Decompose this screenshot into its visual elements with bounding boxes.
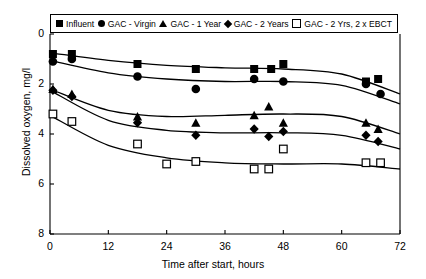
data-point-gac-2-yrs-2-x-ebct bbox=[49, 110, 57, 118]
data-point-influent bbox=[250, 65, 258, 73]
chart-figure: InfluentGAC - VirginGAC - 1 YearGAC - 2 … bbox=[0, 0, 426, 279]
legend-label: GAC - 2 Years bbox=[234, 19, 289, 29]
x-tick-label: 72 bbox=[385, 240, 415, 252]
x-tick-label: 60 bbox=[327, 240, 357, 252]
data-point-influent bbox=[192, 65, 200, 73]
filled-triangle-icon bbox=[159, 20, 167, 27]
data-point-gac-2-yrs-2-x-ebct bbox=[250, 165, 258, 173]
trend-lines bbox=[50, 53, 400, 169]
axis-ticks bbox=[50, 34, 400, 234]
legend-label: GAC - 1 Year bbox=[170, 19, 221, 29]
data-point-influent bbox=[49, 50, 57, 58]
data-point-gac-2-yrs-2-x-ebct bbox=[192, 158, 200, 166]
data-point-gac-1-year bbox=[279, 118, 288, 127]
data-point-gac-2-yrs-2-x-ebct bbox=[280, 145, 288, 153]
trend-line-influent bbox=[50, 53, 400, 94]
data-point-gac-1-year bbox=[264, 102, 273, 111]
data-point-gac-2-yrs-2-x-ebct bbox=[377, 159, 385, 167]
trend-line-gac-2-years bbox=[50, 90, 400, 149]
trend-line-gac-2-yrs-2-x-ebct bbox=[50, 115, 400, 169]
legend-item-gac-virgin: GAC - Virgin bbox=[98, 19, 156, 29]
y-tick-label: 8 bbox=[20, 227, 44, 239]
open-square-icon bbox=[292, 19, 301, 28]
x-tick-label: 48 bbox=[268, 240, 298, 252]
data-point-gac-virgin bbox=[68, 55, 77, 64]
data-point-influent bbox=[134, 60, 142, 68]
data-point-influent bbox=[279, 60, 287, 68]
data-point-gac-virgin bbox=[250, 75, 259, 84]
x-tick-label: 24 bbox=[152, 240, 182, 252]
data-point-gac-virgin bbox=[279, 77, 288, 86]
data-point-gac-2-yrs-2-x-ebct bbox=[362, 159, 370, 167]
data-point-gac-2-years bbox=[279, 127, 288, 137]
x-tick-label: 36 bbox=[210, 240, 240, 252]
axis-lines bbox=[50, 34, 400, 234]
data-point-gac-2-yrs-2-x-ebct bbox=[134, 140, 142, 148]
legend-label: Influent bbox=[66, 19, 94, 29]
data-point-gac-2-yrs-2-x-ebct bbox=[265, 165, 273, 173]
chart-legend: InfluentGAC - VirginGAC - 1 YearGAC - 2 … bbox=[50, 14, 398, 33]
data-point-influent bbox=[374, 75, 382, 83]
data-point-gac-2-years bbox=[374, 137, 383, 147]
data-point-gac-1-year bbox=[191, 118, 200, 127]
data-point-gac-virgin bbox=[49, 57, 58, 66]
legend-item-influent: Influent bbox=[56, 19, 94, 29]
data-point-gac-virgin bbox=[376, 90, 385, 99]
data-point-gac-virgin bbox=[133, 72, 142, 81]
data-point-gac-virgin bbox=[192, 85, 201, 94]
filled-circle-icon bbox=[98, 20, 105, 27]
data-point-gac-2-yrs-2-x-ebct bbox=[68, 118, 76, 126]
data-markers bbox=[48, 50, 385, 173]
y-tick-label: 4 bbox=[20, 127, 44, 139]
y-tick-label: 0 bbox=[20, 27, 44, 39]
legend-label: GAC - Virgin bbox=[108, 19, 156, 29]
filled-diamond-icon bbox=[223, 19, 231, 27]
data-point-gac-2-years bbox=[361, 130, 370, 140]
data-point-gac-2-years bbox=[67, 92, 76, 102]
trend-line-gac-virgin bbox=[50, 60, 400, 104]
y-tick-label: 6 bbox=[20, 177, 44, 189]
x-tick-label: 12 bbox=[93, 240, 123, 252]
legend-item-gac-2-years: GAC - 2 Years bbox=[225, 19, 289, 29]
legend-label: GAC - 2 Yrs, 2 x EBCT bbox=[304, 19, 392, 29]
data-point-gac-2-yrs-2-x-ebct bbox=[163, 160, 171, 168]
x-tick-label: 0 bbox=[35, 240, 65, 252]
legend-item-gac-1-year: GAC - 1 Year bbox=[159, 19, 221, 29]
plot-canvas bbox=[0, 0, 426, 279]
filled-square-icon bbox=[56, 20, 63, 27]
trend-line-gac-1-year bbox=[50, 89, 400, 134]
legend-item-gac-2-yrs-2-x-ebct: GAC - 2 Yrs, 2 x EBCT bbox=[292, 19, 392, 29]
data-point-influent bbox=[267, 65, 275, 73]
x-axis-label: Time after start, hours bbox=[0, 258, 426, 270]
y-axis-label: Dissolved oxygen, mg/l bbox=[20, 52, 32, 192]
data-point-gac-virgin bbox=[362, 80, 371, 89]
y-tick-label: 2 bbox=[20, 77, 44, 89]
